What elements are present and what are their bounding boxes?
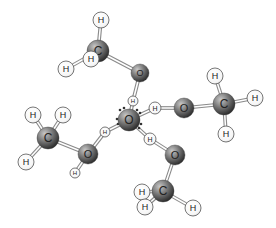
atom-h_c_top: H — [128, 96, 138, 106]
atom-label: O — [84, 148, 93, 160]
molecule-canvas: OOCOCOCOCHHHHHHHHHHHHHHHHH — [0, 0, 276, 228]
lone-pair-dot — [123, 107, 126, 110]
atom-o_center: O — [118, 109, 140, 131]
atom-label: O — [180, 102, 189, 114]
atom-h_right_up: H — [207, 68, 223, 84]
lone-pair-dot — [140, 123, 143, 126]
molecular-diagram: OOCOCOCOCHHHHHHHHHHHHHHHHH — [0, 0, 276, 228]
atom-label: H — [98, 15, 105, 25]
lone-pair-dot — [136, 109, 139, 112]
atom-h_top_left: H — [58, 61, 74, 77]
atom-h_top_up: H — [93, 12, 109, 28]
atom-label: H — [252, 93, 259, 103]
lone-pair-dot — [139, 112, 142, 115]
atom-label: C — [44, 131, 53, 145]
atom-label: C — [220, 97, 229, 111]
atom-h_right_right: H — [247, 90, 263, 106]
atom-label: H — [152, 105, 157, 112]
atom-h_bottom_left: H — [134, 184, 150, 200]
atom-h_bottom_right: H — [185, 200, 201, 216]
atom-label: H — [73, 170, 77, 176]
atom-label: H — [131, 98, 135, 104]
atom-label: O — [171, 149, 180, 161]
atom-c_left: C — [37, 127, 59, 149]
atom-o_left: O — [78, 144, 98, 164]
atom-label: H — [147, 136, 152, 143]
atom-label: H — [88, 54, 95, 64]
atom-h_c_left: H — [100, 127, 110, 137]
atom-h_top_front: H — [83, 51, 99, 67]
atom-o_top: O — [131, 64, 149, 82]
atom-label: O — [136, 68, 143, 78]
atom-o_right: O — [174, 98, 194, 118]
atom-label: H — [60, 110, 67, 120]
atom-o_bottom: O — [165, 145, 185, 165]
atom-label: H — [223, 129, 230, 139]
atom-label: H — [63, 64, 70, 74]
atom-label: H — [30, 110, 37, 120]
atom-label: O — [124, 113, 133, 127]
atom-h_left_ul: H — [25, 107, 41, 123]
atom-label: H — [190, 203, 197, 213]
atom-label: H — [212, 71, 219, 81]
atom-label: C — [159, 184, 168, 198]
atom-label: H — [142, 202, 149, 212]
atom-c_bottom: C — [152, 180, 174, 202]
atom-h_c_bottom: H — [144, 133, 156, 145]
atom-h_left_oh: H — [70, 168, 80, 178]
lone-pair-dot — [138, 127, 141, 130]
atom-label: H — [103, 129, 107, 135]
atom-c_right: C — [213, 93, 235, 115]
atom-label: H — [23, 157, 30, 167]
atom-h_bottom_front: H — [137, 199, 153, 215]
atom-h_right_down: H — [218, 126, 234, 142]
atom-label: H — [139, 187, 146, 197]
lone-pair-dot — [119, 109, 122, 112]
atom-h_c_right: H — [149, 102, 161, 114]
atom-h_left_down: H — [18, 154, 34, 170]
atom-h_left_ur: H — [55, 107, 71, 123]
